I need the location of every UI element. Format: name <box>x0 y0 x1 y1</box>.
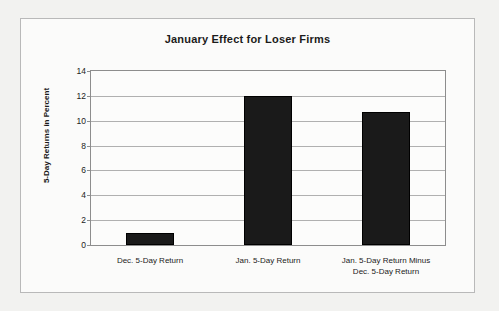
bar[interactable] <box>362 112 410 245</box>
bar[interactable] <box>126 233 174 245</box>
y-axis-tick-mark <box>87 245 91 246</box>
y-axis-tick-label: 14 <box>77 66 86 76</box>
y-axis-tick-mark <box>87 121 91 122</box>
bar[interactable] <box>244 96 292 245</box>
x-axis-category-label: Jan. 5-Day Return MinusDec. 5-Day Return <box>342 255 430 277</box>
x-axis-category-label: Jan. 5-Day Return <box>236 255 301 266</box>
y-axis-tick-label: 8 <box>81 141 86 151</box>
y-axis-tick-mark <box>87 146 91 147</box>
y-axis-tick-label: 10 <box>77 116 86 126</box>
y-axis-tick-label: 4 <box>81 190 86 200</box>
y-axis-tick-label: 12 <box>77 91 86 101</box>
plot-area: 02468101214Dec. 5-Day ReturnJan. 5-Day R… <box>90 70 446 246</box>
chart-frame: January Effect for Loser Firms 5-Day Ret… <box>20 18 475 293</box>
x-axis-category-label-line: Dec. 5-Day Return <box>342 266 430 277</box>
y-axis-tick-label: 6 <box>81 165 86 175</box>
y-axis-tick-mark <box>87 96 91 97</box>
y-axis-tick-mark <box>87 220 91 221</box>
y-axis-title: 5-Day Returns in Percent <box>42 76 51 196</box>
y-axis-tick-mark <box>87 195 91 196</box>
x-axis-category-label-line: Jan. 5-Day Return <box>236 255 301 266</box>
y-axis-tick-label: 2 <box>81 215 86 225</box>
x-axis-category-label: Dec. 5-Day Return <box>117 255 183 266</box>
y-axis-tick-label: 0 <box>81 240 86 250</box>
y-axis-tick-mark <box>87 71 91 72</box>
x-axis-category-label-line: Dec. 5-Day Return <box>117 255 183 266</box>
x-axis-category-label-line: Jan. 5-Day Return Minus <box>342 255 430 266</box>
chart-title: January Effect for Loser Firms <box>21 33 474 45</box>
y-axis-tick-mark <box>87 170 91 171</box>
